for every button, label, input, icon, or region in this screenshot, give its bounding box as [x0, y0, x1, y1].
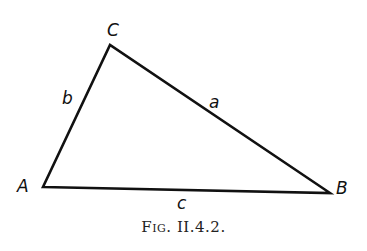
vertex-label-b: B — [336, 178, 348, 198]
side-label-c: c — [177, 193, 187, 213]
side-label-a: a — [209, 92, 219, 112]
vertex-label-c: C — [107, 20, 119, 40]
triangle-abc — [43, 45, 330, 193]
triangle-diagram: C A B b a c — [0, 0, 367, 251]
vertex-label-a: A — [16, 176, 29, 196]
figure-caption: Fig. II.4.2. — [0, 218, 367, 236]
side-label-b: b — [62, 88, 73, 108]
